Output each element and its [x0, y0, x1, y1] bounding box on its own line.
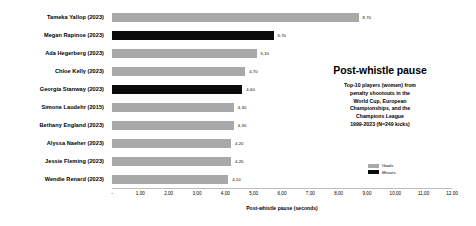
legend-item[interactable]: Goals: [368, 163, 396, 168]
x-axis-tick-label: 12,00: [446, 191, 458, 196]
x-axis-line: [112, 188, 452, 189]
chart-title: Post-whistle pause: [296, 64, 464, 76]
y-axis-tick-label: Georgia Stanway (2023): [0, 80, 108, 98]
x-axis-tick-label: 10,00: [390, 191, 402, 196]
bar-value-label: 8,70: [363, 15, 372, 20]
bar[interactable]: 4,30: [112, 121, 234, 130]
chart-subtitle-line: Championships, and the: [296, 105, 464, 113]
x-axis-tick-label: 2,00: [164, 191, 173, 196]
chart-subtitle-line: Top-10 players (women) from: [296, 82, 464, 90]
bar-value-label: 4,30: [238, 105, 247, 110]
bar-row: 4,20: [112, 152, 452, 170]
bar[interactable]: 8,70: [112, 13, 359, 22]
y-axis-tick-label: Bethany England (2023): [0, 116, 108, 134]
y-axis-tick-label: Alyssa Naeher (2023): [0, 134, 108, 152]
chart-subtitle-line: 1999-2023 (N=249 kicks): [296, 121, 464, 129]
bar[interactable]: 4,10: [112, 175, 228, 184]
x-axis-tick-label: -: [111, 191, 113, 196]
x-axis-tick-label: 11,00: [418, 191, 429, 196]
y-axis-tick-label: Ada Hegerberg (2023): [0, 44, 108, 62]
bar[interactable]: 4,70: [112, 67, 245, 76]
bar[interactable]: 4,20: [112, 157, 231, 166]
y-axis-tick-label: Wendie Renard (2023): [0, 170, 108, 188]
x-axis-tick-label: 1,00: [136, 191, 145, 196]
bar-value-label: 4,10: [232, 177, 241, 182]
bar-value-label: 4,60: [246, 87, 255, 92]
y-axis-tick-label: Tameka Yallop (2023): [0, 8, 108, 26]
bar-value-label: 4,20: [235, 141, 244, 146]
bar-value-label: 4,70: [249, 69, 258, 74]
legend-label: Goals: [382, 163, 393, 168]
bar[interactable]: 5,70: [112, 31, 274, 40]
bar-value-label: 4,30: [238, 123, 247, 128]
bar-row: 5,10: [112, 44, 452, 62]
chart-container: Tameka Yallop (2023) Megan Rapinoe (2023…: [0, 0, 476, 226]
bar[interactable]: 5,10: [112, 49, 257, 58]
legend-label: Misses: [382, 170, 396, 175]
bar[interactable]: 4,30: [112, 103, 234, 112]
x-axis-tick-label: 8,00: [334, 191, 343, 196]
chart-subtitle-line: Champions League: [296, 113, 464, 121]
y-axis-tick-label: Jessie Fleming (2023): [0, 152, 108, 170]
x-axis-tick-label: 6,00: [278, 191, 287, 196]
bar-row: 4,20: [112, 134, 452, 152]
chart-legend: GoalsMisses: [368, 163, 396, 176]
legend-swatch-icon: [368, 164, 379, 168]
annotation-block: Post-whistle pause Top-10 players (women…: [296, 64, 464, 129]
bar[interactable]: 4,60: [112, 85, 242, 94]
bar-value-label: 5,70: [278, 33, 287, 38]
bar-row: 4,10: [112, 170, 452, 188]
x-axis-tick-label: 9,00: [363, 191, 372, 196]
x-axis-tick-label: 5,00: [249, 191, 258, 196]
y-axis-tick-label: Chloe Kelly (2023): [0, 62, 108, 80]
bar[interactable]: 4,20: [112, 139, 231, 148]
bar-value-label: 5,10: [261, 51, 270, 56]
x-axis-tick-label: 4,00: [221, 191, 230, 196]
x-axis-tick-label: 3,00: [193, 191, 202, 196]
y-axis-tick-label: Simone Laudehr (2015): [0, 98, 108, 116]
y-axis-category-labels: Tameka Yallop (2023) Megan Rapinoe (2023…: [0, 8, 108, 188]
bar-row: 8,70: [112, 8, 452, 26]
bar-value-label: 4,20: [235, 159, 244, 164]
chart-subtitle-line: World Cup, European: [296, 98, 464, 106]
chart-subtitle: Top-10 players (women) frompenalty shoot…: [296, 82, 464, 129]
legend-swatch-icon: [368, 170, 379, 174]
x-axis-title: Post-whistle pause (seconds): [112, 205, 452, 211]
x-axis-ticks: -1,002,003,004,005,006,007,008,009,0010,…: [112, 191, 452, 201]
bar-row: 5,70: [112, 26, 452, 44]
chart-subtitle-line: penalty shootouts in the: [296, 90, 464, 98]
legend-item[interactable]: Misses: [368, 170, 396, 175]
y-axis-tick-label: Megan Rapinoe (2023): [0, 26, 108, 44]
x-axis-tick-label: 7,00: [306, 191, 315, 196]
